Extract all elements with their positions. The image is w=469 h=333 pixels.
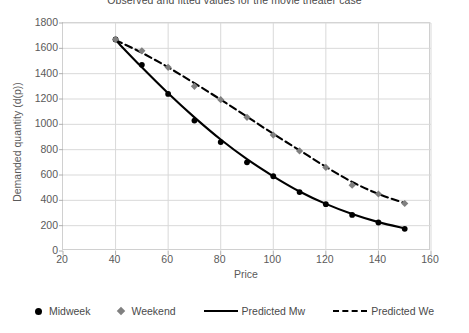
solid-line-swatch-icon	[204, 310, 238, 312]
data-point-weekend	[401, 200, 408, 207]
y-tick-label: 400	[0, 193, 58, 205]
gridlines	[63, 23, 431, 251]
legend-label: Weekend	[131, 305, 175, 317]
y-tick-label: 1800	[0, 16, 58, 28]
circle-marker-icon	[35, 308, 42, 315]
chart-legend: MidweekWeekendPredicted MwPredicted We	[0, 305, 469, 317]
y-axis-title: Demanded quantity (d(p))	[11, 62, 23, 222]
legend-item-predicted-mw[interactable]: Predicted Mw	[204, 305, 306, 317]
legend-item-midweek[interactable]: Midweek	[35, 305, 90, 317]
legend-label: Predicted We	[371, 305, 434, 317]
dashed-line-swatch-icon	[333, 310, 367, 312]
x-tick-label: 100	[247, 253, 297, 265]
x-tick-label: 140	[352, 253, 402, 265]
data-point-midweek	[244, 159, 250, 165]
legend-item-predicted-we[interactable]: Predicted We	[333, 305, 434, 317]
y-tick-label: 1400	[0, 67, 58, 79]
x-tick-label: 80	[195, 253, 245, 265]
diamond-marker-icon	[117, 307, 125, 315]
data-point-midweek	[270, 173, 276, 179]
y-tick-label: 1600	[0, 41, 58, 53]
x-tick-label: 60	[142, 253, 192, 265]
fitted-curve-predicted-we	[116, 40, 405, 203]
data-point-midweek	[349, 212, 355, 218]
x-tick-label: 20	[37, 253, 87, 265]
data-point-midweek	[192, 118, 198, 124]
plot-area	[62, 22, 430, 250]
legend-label: Predicted Mw	[242, 305, 306, 317]
chart-title: Observed and fitted values for the movie…	[0, 0, 469, 6]
legend-item-weekend[interactable]: Weekend	[118, 305, 175, 317]
data-point-midweek	[139, 62, 145, 68]
y-tick-label: 1000	[0, 117, 58, 129]
x-axis-title: Price	[62, 268, 430, 280]
x-tick-label: 120	[300, 253, 350, 265]
data-point-midweek	[297, 189, 303, 195]
chart-container: Observed and fitted values for the movie…	[0, 0, 469, 333]
y-tick-label: 200	[0, 219, 58, 231]
series-midweek	[113, 37, 408, 232]
y-tick-label: 1200	[0, 92, 58, 104]
y-tick-label: 800	[0, 143, 58, 155]
y-axis-ticks	[59, 23, 63, 251]
x-tick-label: 160	[405, 253, 455, 265]
x-tick-label: 40	[90, 253, 140, 265]
data-point-midweek	[402, 226, 408, 232]
data-point-midweek	[376, 220, 382, 226]
y-tick-label: 600	[0, 168, 58, 180]
legend-label: Midweek	[49, 305, 90, 317]
plot-svg	[63, 23, 431, 251]
data-point-weekend	[375, 190, 382, 197]
data-point-midweek	[218, 139, 224, 145]
data-point-midweek	[323, 201, 329, 207]
y-axis-tick-labels: 020040060080010001200140016001800	[0, 0, 58, 333]
data-point-midweek	[165, 91, 171, 97]
